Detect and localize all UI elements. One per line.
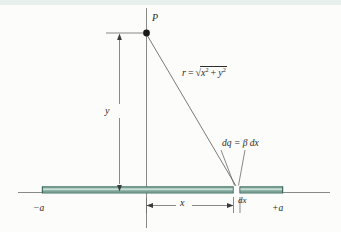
point-p-marker: [143, 30, 150, 37]
radicand-y-exponent: 2: [223, 66, 226, 73]
x-dimension-arrow-left: [147, 203, 154, 208]
figure-background: [0, 0, 341, 232]
diagram-canvas: [0, 0, 341, 232]
physics-diagram-charged-rod: P y r=√x2+y2 dq = β dx x dx −a +a: [0, 0, 341, 232]
charge-element-leader-left: [221, 150, 235, 186]
y-label-backdrop: [113, 104, 126, 118]
horizontal-x-label: x: [180, 198, 184, 208]
rod-highlight-left: [42, 188, 233, 190]
distance-r-radical: √x2+y2: [196, 66, 227, 78]
height-y-label: y: [105, 106, 109, 116]
element-dx-segment: [233, 187, 240, 194]
distance-r-line: [147, 35, 236, 186]
radicand-plus: +: [209, 67, 219, 78]
top-tint-band: [0, 0, 341, 5]
rod-highlight-right: [240, 188, 283, 190]
distance-r-equals: =: [186, 67, 196, 78]
distance-r-formula: r=√x2+y2: [182, 66, 227, 78]
y-dimension: [106, 33, 143, 192]
point-p-label: P: [152, 13, 158, 23]
radicand: x2+y2: [200, 66, 227, 78]
rod-left-end-label: −a: [33, 204, 44, 214]
element-dx-label: dx: [238, 196, 247, 205]
x-dimension-arrow-right: [227, 203, 234, 208]
charge-element-label: dq = β dx: [222, 139, 259, 149]
charge-element-leader-right: [239, 150, 246, 186]
rod-right-end-label: +a: [272, 204, 283, 214]
charged-rod: [42, 186, 283, 193]
x-dimension: [147, 197, 241, 213]
y-dimension-arrow-up: [117, 34, 122, 41]
